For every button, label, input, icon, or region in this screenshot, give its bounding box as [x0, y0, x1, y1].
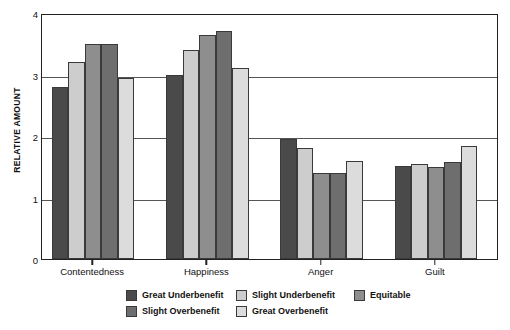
- legend-item[interactable]: Great Overbenefit: [236, 304, 328, 318]
- bar: [330, 173, 347, 259]
- x-category-label: Anger: [308, 266, 333, 277]
- bar: [395, 166, 412, 259]
- legend-item[interactable]: Slight Underbenefit: [236, 288, 335, 302]
- legend-label: Equitable: [370, 290, 411, 300]
- legend-swatch: [236, 306, 247, 317]
- bar: [346, 161, 363, 259]
- bar-group: [166, 15, 249, 259]
- bar: [444, 162, 461, 259]
- y-tick-label: 0: [33, 255, 38, 266]
- bar-group: [52, 15, 135, 259]
- legend-item[interactable]: Great Underbenefit: [126, 288, 224, 302]
- legend-label: Slight Overbenefit: [142, 306, 220, 316]
- legend-swatch: [126, 290, 137, 301]
- y-axis-tick-labels: 01234: [24, 14, 38, 260]
- bar: [183, 50, 200, 259]
- bar: [85, 44, 102, 259]
- bar: [461, 146, 478, 259]
- x-axis-category-labels: ContentednessHappinessAngerGuilt: [41, 266, 498, 282]
- legend-item[interactable]: Equitable: [354, 288, 411, 302]
- bar: [232, 68, 249, 259]
- bar: [101, 44, 118, 259]
- x-tick: [320, 260, 321, 265]
- legend-swatch: [354, 290, 365, 301]
- bar: [280, 139, 297, 259]
- bar: [52, 87, 69, 259]
- bar: [428, 167, 445, 259]
- legend-label: Great Underbenefit: [142, 290, 224, 300]
- x-tick: [206, 260, 207, 265]
- legend-item[interactable]: Slight Overbenefit: [126, 304, 220, 318]
- bar: [297, 148, 314, 259]
- y-axis-title-label: RELATIVE AMOUNT: [12, 87, 22, 172]
- bar: [411, 164, 428, 259]
- bar-group: [395, 15, 478, 259]
- bar: [118, 78, 135, 259]
- bar: [166, 75, 183, 260]
- y-tick-label: 1: [33, 193, 38, 204]
- legend-label: Slight Underbenefit: [252, 290, 335, 300]
- y-tick-label: 4: [33, 9, 38, 20]
- y-tick-label: 2: [33, 132, 38, 143]
- bar-chart: RELATIVE AMOUNT 01234 ContentednessHappi…: [0, 0, 510, 330]
- bar: [216, 31, 233, 259]
- x-tick: [434, 260, 435, 265]
- x-category-label: Contentedness: [60, 266, 124, 277]
- bar: [313, 173, 330, 259]
- plot-area: [41, 14, 498, 260]
- x-category-label: Guilt: [425, 266, 445, 277]
- bars-layer: [42, 15, 497, 259]
- bar: [68, 62, 85, 259]
- bar-group: [280, 15, 363, 259]
- legend-label: Great Overbenefit: [252, 306, 328, 316]
- x-tick: [91, 260, 92, 265]
- legend-swatch: [236, 290, 247, 301]
- y-tick-label: 3: [33, 70, 38, 81]
- chart-legend: Great UnderbenefitSlight OverbenefitSlig…: [126, 288, 426, 322]
- bar: [199, 35, 216, 259]
- x-category-label: Happiness: [184, 266, 229, 277]
- legend-swatch: [126, 306, 137, 317]
